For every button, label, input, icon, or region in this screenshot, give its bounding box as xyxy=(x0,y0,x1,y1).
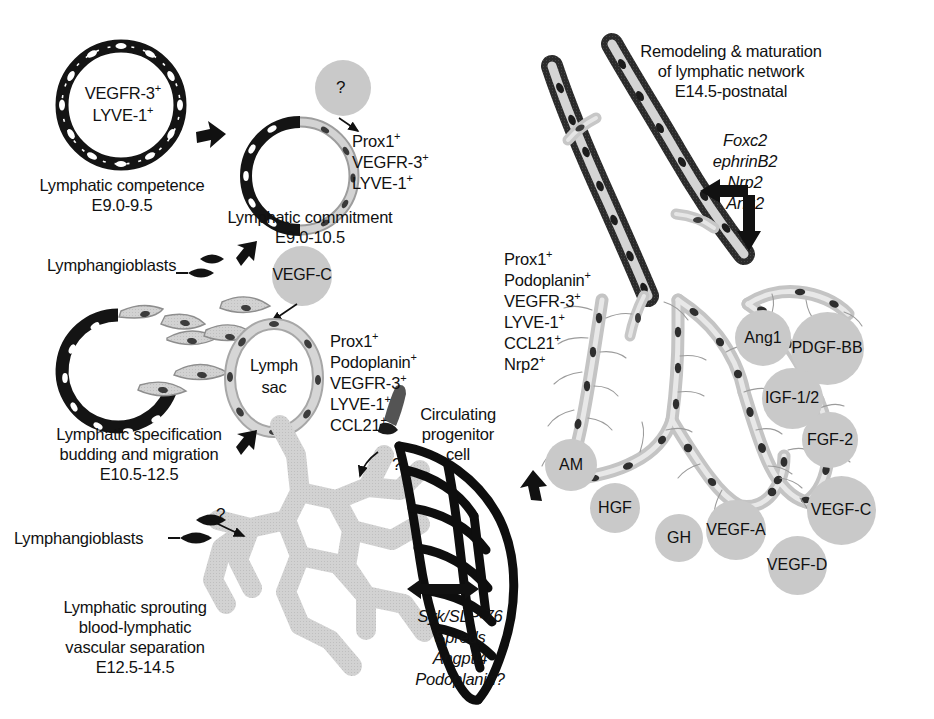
growth-factor-circle-vegf-a: VEGF-A xyxy=(706,500,766,560)
right-panel-marker-1: Prox1+ xyxy=(504,248,553,269)
separation-gene-2: Spreds xyxy=(384,628,536,647)
right-panel-marker-2: Podoplanin+ xyxy=(504,269,591,290)
superscript-plus: + xyxy=(554,332,560,344)
stage3-caption-line1: Lymphatic specification xyxy=(14,425,264,444)
growth-factor-label: IGF-1/2 xyxy=(765,389,819,407)
stage2-unknown-signal-label: ? xyxy=(336,78,345,98)
growth-factor-label: AM xyxy=(559,456,583,474)
superscript-plus: + xyxy=(546,248,552,260)
growth-factor-circle-am: AM xyxy=(545,439,597,491)
lymphatic-development-figure: VEGFR-3+ LYVE-1+ Lymphatic competence E9… xyxy=(0,0,934,719)
superscript-plus: + xyxy=(147,104,153,116)
lymphangioblasts-label-stage3: Lymphangioblasts xyxy=(47,256,176,275)
remodeling-gene-3: Nrp2 xyxy=(690,173,800,192)
growth-factor-label: VEGF-A xyxy=(706,521,766,539)
stage3-marker-4: LYVE-1+ xyxy=(330,393,391,414)
remodeling-gene-4: Ang2 xyxy=(690,194,800,213)
stage3-caption-line3: E10.5-12.5 xyxy=(14,465,264,484)
stage4-caption-line1: Lymphatic sprouting xyxy=(10,598,260,617)
stage2-marker-3: LYVE-1+ xyxy=(352,172,413,193)
growth-factor-label: GH xyxy=(667,529,691,547)
superscript-plus: + xyxy=(422,151,428,163)
arrow-to-right-panel xyxy=(520,470,547,501)
growth-factor-label: VEGF-D xyxy=(767,556,827,574)
superscript-plus: + xyxy=(380,414,386,426)
growth-factor-circle-hgf: HGF xyxy=(590,483,640,533)
superscript-plus: + xyxy=(394,130,400,142)
remodeling-gene-1: Foxc2 xyxy=(690,131,800,150)
growth-factor-label: FGF-2 xyxy=(807,431,853,449)
growth-factor-label: PDGF-BB xyxy=(791,339,862,357)
progenitor-label-line1: Circulating xyxy=(396,405,520,424)
superscript-plus: + xyxy=(400,372,406,384)
lymph-sac-label-line1: Lymph xyxy=(236,356,312,375)
stage1-caption-line1: Lymphatic competence xyxy=(9,176,235,195)
growth-factor-circle-fgf-2: FGF-2 xyxy=(802,412,858,468)
stage3-vein-ring xyxy=(62,315,170,434)
right-panel-marker-6: Nrp2+ xyxy=(504,353,545,374)
stage2-caption-line2: E9.0-10.5 xyxy=(200,228,420,247)
lymphangioblast-shapes-stage3 xyxy=(176,255,224,278)
stage3-marker-3: VEGFR-3+ xyxy=(330,372,407,393)
remodeling-gene-2: ephrinB2 xyxy=(690,152,800,171)
superscript-plus: + xyxy=(539,353,545,365)
progenitor-label-line2: progenitor xyxy=(396,425,520,444)
separation-gene-4: Podoplanin? xyxy=(384,670,536,689)
stage1-ring-marker-2: LYVE-1+ xyxy=(68,104,178,125)
superscript-plus: + xyxy=(574,290,580,302)
stage3-marker-5: CCL21+ xyxy=(330,414,387,435)
right-panel-marker-3: VEGFR-3+ xyxy=(504,290,581,311)
growth-factor-circle-vegf-d: VEGF-D xyxy=(768,536,827,595)
separation-gene-3: Angptl4 xyxy=(384,649,536,668)
stage2-marker-2: VEGFR-3+ xyxy=(352,151,429,172)
lymph-sac-label-line2: sac xyxy=(236,378,312,397)
growth-factor-circle-vegf-c: VEGF-C xyxy=(807,476,876,545)
right-panel-heading-line3: E14.5-postnatal xyxy=(604,82,858,101)
stage2-caption-line1: Lymphatic commitment xyxy=(200,208,420,227)
superscript-plus: + xyxy=(406,172,412,184)
growth-factor-circle-ang1: Ang1 xyxy=(735,310,791,366)
stage3-caption-line2: budding and migration xyxy=(14,445,264,464)
lymphangioblasts-label-stage4: Lymphangioblasts xyxy=(14,529,143,548)
vegfc-label-stage3: VEGF-C xyxy=(266,266,338,285)
stage3-marker-2: Podoplanin+ xyxy=(330,351,417,372)
superscript-plus: + xyxy=(384,393,390,405)
stage4-unknown-label-1: ? xyxy=(216,505,225,525)
growth-factor-circle-gh: GH xyxy=(655,514,703,562)
stage1-ring-marker-1: VEGFR-3+ xyxy=(68,82,178,103)
superscript-plus: + xyxy=(411,351,417,363)
stage4-caption-line2: blood-lymphatic xyxy=(10,618,260,637)
right-panel-marker-4: LYVE-1+ xyxy=(504,311,565,332)
superscript-plus: + xyxy=(155,82,161,94)
stage2-marker-1: Prox1+ xyxy=(352,130,401,151)
superscript-plus: + xyxy=(558,311,564,323)
right-panel-heading-line2: of lymphatic network xyxy=(604,62,858,81)
growth-factor-label: HGF xyxy=(598,499,632,517)
progenitor-label-line3: cell xyxy=(396,445,520,464)
superscript-plus: + xyxy=(372,330,378,342)
right-panel-marker-5: CCL21+ xyxy=(504,332,561,353)
stage3-marker-1: Prox1+ xyxy=(330,330,379,351)
separation-gene-1: Syk/SLP-76 xyxy=(384,607,536,626)
superscript-plus: + xyxy=(585,269,591,281)
arrow-stage1-to-stage2 xyxy=(196,121,226,148)
growth-factor-label: Ang1 xyxy=(744,329,781,347)
stage4-caption-line4: E12.5-14.5 xyxy=(10,658,260,677)
right-panel-heading-line1: Remodeling & maturation xyxy=(604,42,858,61)
growth-factor-label: VEGF-C xyxy=(811,501,871,519)
stage4-caption-line3: vascular separation xyxy=(10,638,260,657)
